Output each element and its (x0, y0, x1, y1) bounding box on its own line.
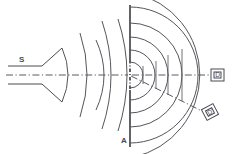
incident-wavefronts-group (80, 19, 127, 131)
diffracted-wavefronts-group (130, 0, 200, 154)
aperture-label: A (121, 136, 127, 145)
source-label: S (19, 55, 25, 64)
barrier-group: A (121, 5, 130, 147)
detector-offaxis[interactable]: D' (201, 104, 218, 121)
diffraction-diagram-canvas: S A (0, 0, 232, 154)
horn-lower-wall (8, 84, 62, 102)
detector-axial[interactable]: D (211, 69, 224, 81)
horn-upper-wall (8, 48, 62, 66)
detector-axial-label: D (215, 71, 220, 78)
diffracted-wavefront-6 (134, 0, 200, 154)
diffraction-figure: S A (0, 0, 232, 154)
